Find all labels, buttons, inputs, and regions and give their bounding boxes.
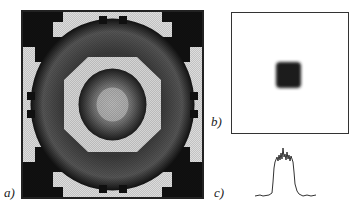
- panel-a-intensity-pattern: [21, 10, 204, 199]
- ring-pattern-graphic: [23, 12, 202, 197]
- dark-spot-graphic: [232, 13, 348, 133]
- label-c: c): [214, 185, 224, 201]
- label-b: b): [211, 114, 222, 130]
- panel-b-spot-field: [231, 12, 349, 134]
- profile-curve: [255, 142, 325, 202]
- panel-c-intensity-profile: [255, 142, 325, 202]
- label-a: a): [4, 185, 15, 201]
